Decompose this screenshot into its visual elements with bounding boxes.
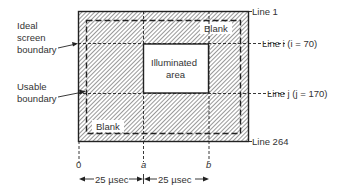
ideal-boundary-label-2: screen bbox=[17, 32, 46, 43]
ideal-boundary-arrow-icon bbox=[72, 42, 78, 47]
usable-boundary-label-2: boundary bbox=[17, 93, 57, 104]
span-1-label: 25 µsec bbox=[95, 174, 128, 185]
line-1-label: Line 1 bbox=[252, 6, 278, 17]
blank-bottom-label: Blank bbox=[96, 121, 120, 132]
illuminated-label-1: Illuminated bbox=[151, 57, 197, 68]
blank-top-label: Blank bbox=[204, 23, 228, 34]
illuminated-label-2: area bbox=[166, 69, 185, 80]
arrow-right-icon bbox=[203, 177, 209, 182]
axis-a-label: a bbox=[141, 159, 146, 170]
ideal-boundary-label-1: Ideal bbox=[17, 20, 38, 31]
line-264-label: Line 264 bbox=[252, 136, 288, 147]
span-2-label: 25 µsec bbox=[158, 174, 191, 185]
ideal-boundary-label-3: boundary bbox=[17, 44, 57, 55]
line-j-label: Line j (j = 170) bbox=[267, 88, 327, 99]
arrow-right-icon bbox=[137, 177, 143, 182]
line-i-label: Line i (i = 70) bbox=[262, 38, 317, 49]
arrow-left-icon bbox=[79, 177, 85, 182]
usable-boundary-label-1: Usable bbox=[17, 81, 47, 92]
axis-b-label: b bbox=[206, 159, 211, 170]
axis-zero-label: 0 bbox=[76, 159, 81, 170]
